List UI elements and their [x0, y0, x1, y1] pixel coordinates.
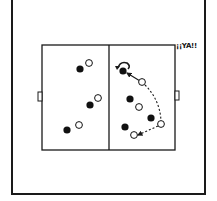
player-black — [76, 65, 83, 72]
player-black — [147, 114, 154, 121]
player-black — [126, 95, 133, 102]
player-white — [139, 79, 146, 86]
pass-arrow — [127, 73, 140, 81]
players — [63, 60, 164, 139]
drill-diagram — [0, 0, 217, 201]
player-black — [119, 67, 126, 74]
player-black — [121, 123, 128, 130]
player-white — [131, 132, 138, 139]
turn-arrowhead — [115, 66, 120, 70]
player-white — [136, 104, 143, 111]
player-white — [95, 95, 102, 102]
player-white — [158, 121, 165, 128]
player-white — [86, 60, 93, 67]
goal-right — [175, 91, 179, 100]
annotation-label: ¡¡YA!! — [176, 42, 197, 50]
goal-left — [38, 92, 42, 101]
player-white — [76, 122, 83, 129]
player-black — [86, 101, 93, 108]
run-arrow-dashed — [138, 126, 158, 135]
player-black — [63, 126, 70, 133]
